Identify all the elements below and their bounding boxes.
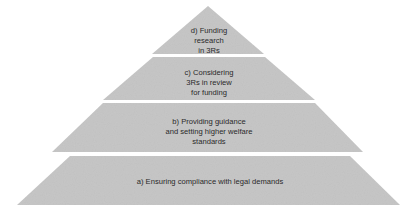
tier-a-label: a) Ensuring compliance with legal demand…: [137, 177, 283, 187]
tier-b-line-2: and setting higher welfare: [166, 127, 253, 137]
tier-d-line-2: research: [191, 36, 227, 46]
tier-c-label: c) Considering 3Rs in review for funding: [185, 68, 234, 98]
tier-b-line-1: b) Providing guidance: [166, 117, 253, 127]
tier-c-line-1: c) Considering: [185, 68, 234, 78]
tier-d-line-3: in 3Rs: [191, 46, 227, 56]
tier-c-line-2: 3Rs in review: [185, 78, 234, 88]
tier-b-line-3: standards: [166, 137, 253, 147]
tier-c-line-3: for funding: [185, 88, 234, 98]
tier-d-line-1: d) Funding: [191, 26, 227, 36]
tier-d-label: d) Funding research in 3Rs: [191, 26, 227, 56]
tier-b-label: b) Providing guidance and setting higher…: [166, 117, 253, 147]
tier-a-line-1: a) Ensuring compliance with legal demand…: [137, 177, 283, 187]
